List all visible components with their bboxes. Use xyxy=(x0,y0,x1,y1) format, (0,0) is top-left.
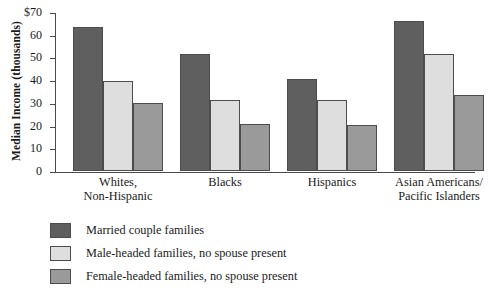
bar xyxy=(454,95,484,171)
bar-group: Asian Americans/ Pacific Islanders xyxy=(394,12,484,171)
y-axis-tick: 30 xyxy=(50,104,55,105)
plot-area: $706050403020100 Whites, Non-HispanicBla… xyxy=(55,13,475,172)
bar xyxy=(73,27,103,171)
legend-swatch xyxy=(50,269,71,284)
legend-label: Married couple families xyxy=(86,223,204,238)
chart-legend: Married couple familiesMale-headed famil… xyxy=(50,219,450,288)
legend-item: Male-headed families, no spouse present xyxy=(50,242,450,265)
bar xyxy=(103,81,133,171)
y-axis-tick-label: 40 xyxy=(8,73,42,88)
bar xyxy=(347,125,377,171)
bar xyxy=(287,79,317,171)
bar xyxy=(394,21,424,171)
y-axis-tick: 10 xyxy=(50,149,55,150)
legend-item: Married couple families xyxy=(50,219,450,242)
bar xyxy=(180,54,210,171)
y-axis-tick-label: 60 xyxy=(8,28,42,43)
bar-group: Blacks xyxy=(180,12,270,171)
y-axis-tick-label: 20 xyxy=(8,119,42,134)
legend-item: Female-headed families, no spouse presen… xyxy=(50,265,450,288)
legend-swatch xyxy=(50,223,71,238)
legend-label: Female-headed families, no spouse presen… xyxy=(86,269,297,284)
y-axis-tick-label: 10 xyxy=(8,141,42,156)
y-axis-tick: 40 xyxy=(50,81,55,82)
x-axis-line xyxy=(55,172,475,173)
bar-group: Hispanics xyxy=(287,12,377,171)
bar xyxy=(133,103,163,171)
legend-label: Male-headed families, no spouse present xyxy=(86,246,286,261)
bar-group: Whites, Non-Hispanic xyxy=(73,12,163,171)
y-axis-tick: 50 xyxy=(50,58,55,59)
y-axis-line xyxy=(55,13,56,173)
x-axis-group-label: Asian Americans/ Pacific Islanders xyxy=(354,175,488,203)
y-axis-tick: $70 xyxy=(50,13,55,14)
y-axis-tick-label: 30 xyxy=(8,96,42,111)
y-axis-tick: 60 xyxy=(50,36,55,37)
y-axis-tick: 0 xyxy=(50,172,55,173)
y-axis-tick: 20 xyxy=(50,127,55,128)
bar xyxy=(240,124,270,171)
y-axis-tick-label: $70 xyxy=(8,5,42,20)
bar xyxy=(317,100,347,171)
legend-swatch xyxy=(50,246,71,261)
bar xyxy=(424,54,454,171)
y-axis-tick-label: 50 xyxy=(8,50,42,65)
bar xyxy=(210,100,240,171)
